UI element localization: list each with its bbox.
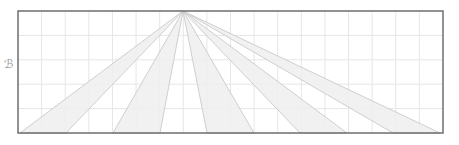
- perspective-diagram: [0, 0, 459, 145]
- side-label: ℬ: [4, 57, 13, 71]
